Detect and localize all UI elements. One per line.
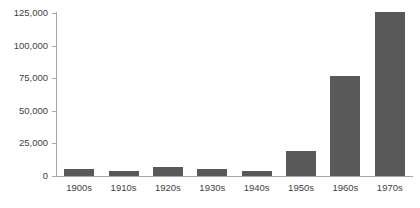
y-axis-tick (52, 46, 56, 47)
y-axis-tick-label: 100,000 (14, 41, 48, 51)
x-axis-line (56, 176, 413, 177)
y-axis-tick-label: 0 (43, 171, 48, 181)
y-axis-tick (52, 111, 56, 112)
bar (242, 171, 272, 176)
y-axis-tick-label: 50,000 (19, 106, 48, 116)
bar (375, 12, 405, 176)
bar (197, 169, 227, 176)
bar (330, 76, 360, 176)
x-axis-tick-label: 1970s (360, 182, 420, 193)
y-axis-tick (52, 143, 56, 144)
bar (109, 171, 139, 176)
y-axis-tick-label: 75,000 (19, 73, 48, 83)
y-axis-tick (52, 78, 56, 79)
y-axis-tick (52, 176, 56, 177)
y-axis-tick-label: 25,000 (19, 138, 48, 148)
bar-chart: 025,00050,00075,000100,000125,000 1900s1… (0, 0, 420, 208)
bar (286, 151, 316, 176)
bar (64, 169, 94, 176)
bar-series (57, 13, 412, 176)
y-axis-tick-label: 125,000 (14, 8, 48, 18)
y-axis-tick (52, 13, 56, 14)
bar (153, 167, 183, 176)
